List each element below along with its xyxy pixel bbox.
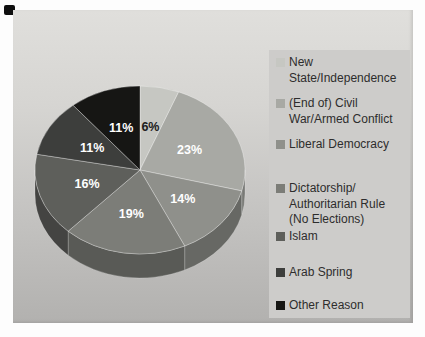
legend-item: Dictatorship/ Authoritarian Rule (No Ele… <box>269 181 410 228</box>
legend-swatch-icon <box>276 232 285 241</box>
scanned-page: New State/Independence(End of) Civil War… <box>0 0 425 337</box>
legend-item: New State/Independence <box>269 55 410 86</box>
legend-swatch-icon <box>276 184 285 193</box>
legend-swatch-icon <box>276 301 285 310</box>
legend-label: (End of) Civil War/Armed Conflict <box>289 96 406 127</box>
legend-label: Dictatorship/ Authoritarian Rule (No Ele… <box>289 181 406 228</box>
legend-swatch-icon <box>276 268 285 277</box>
pie-chart-figure: New State/Independence(End of) Civil War… <box>13 10 413 323</box>
legend-swatch-icon <box>276 58 285 67</box>
legend-label: Arab Spring <box>289 265 406 281</box>
legend-item: Islam <box>269 229 410 245</box>
legend-label: Other Reason <box>289 298 406 314</box>
legend-swatch-icon <box>276 99 285 108</box>
legend-label: New State/Independence <box>289 55 406 86</box>
legend-label: Islam <box>289 229 406 245</box>
legend-swatch-icon <box>276 140 285 149</box>
legend-label: Liberal Democracy <box>289 137 406 153</box>
legend-item: Other Reason <box>269 298 410 314</box>
legend-item: Liberal Democracy <box>269 137 410 153</box>
chart-legend: New State/Independence(End of) Civil War… <box>269 50 410 318</box>
legend-item: Arab Spring <box>269 265 410 281</box>
legend-item: (End of) Civil War/Armed Conflict <box>269 96 410 127</box>
